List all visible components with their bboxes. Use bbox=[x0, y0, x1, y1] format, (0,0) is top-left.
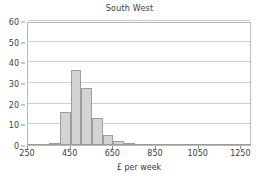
plot-area bbox=[27, 22, 251, 146]
y-tick-mark-60 bbox=[21, 22, 25, 23]
y-axis: 0102030405060 bbox=[0, 22, 25, 146]
y-tick-mark-30 bbox=[21, 84, 25, 85]
chart-title: South West bbox=[0, 4, 259, 13]
x-tick-label-450: 450 bbox=[62, 149, 77, 158]
bar bbox=[92, 118, 103, 145]
y-tick-mark-50 bbox=[21, 42, 25, 43]
x-tick-mark-250 bbox=[27, 146, 28, 149]
y-tick-mark-10 bbox=[21, 125, 25, 126]
y-tick-label-50: 50 bbox=[9, 38, 19, 47]
x-tick-mark-1250 bbox=[240, 146, 241, 149]
y-tick-label-40: 40 bbox=[9, 59, 19, 68]
x-axis-title: £ per week bbox=[27, 163, 251, 172]
x-tick-mark-850 bbox=[155, 146, 156, 149]
y-tick-label-10: 10 bbox=[9, 121, 19, 130]
y-tick-mark-20 bbox=[21, 104, 25, 105]
bar bbox=[124, 143, 135, 145]
y-tick-mark-40 bbox=[21, 63, 25, 64]
y-tick-mark-0 bbox=[21, 146, 25, 147]
x-tick-label-850: 850 bbox=[147, 149, 162, 158]
x-tick-label-1050: 1050 bbox=[187, 149, 207, 158]
bar bbox=[71, 70, 82, 145]
bar bbox=[49, 143, 60, 145]
y-tick-label-0: 0 bbox=[14, 142, 19, 151]
x-tick-label-250: 250 bbox=[19, 149, 34, 158]
x-tick-mark-1050 bbox=[198, 146, 199, 149]
chart-figure: South West 0102030405060 250450650850105… bbox=[0, 0, 259, 185]
x-tick-mark-650 bbox=[112, 146, 113, 149]
y-tick-label-20: 20 bbox=[9, 100, 19, 109]
bar bbox=[60, 112, 71, 145]
gridline-y-60 bbox=[28, 20, 250, 21]
y-tick-label-30: 30 bbox=[9, 80, 19, 89]
bar bbox=[103, 135, 114, 145]
x-tick-label-650: 650 bbox=[105, 149, 120, 158]
bar bbox=[81, 88, 92, 145]
x-tick-mark-450 bbox=[70, 146, 71, 149]
x-tick-label-1250: 1250 bbox=[230, 149, 250, 158]
bar bbox=[113, 141, 124, 145]
x-axis: 25045065085010501250 bbox=[27, 147, 251, 163]
y-tick-label-60: 60 bbox=[9, 18, 19, 27]
bar-series bbox=[28, 23, 250, 145]
